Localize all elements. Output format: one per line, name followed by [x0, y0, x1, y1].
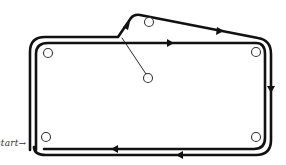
track-diagram [0, 0, 286, 165]
peg-top-left [44, 49, 53, 58]
arrow-bottom-inner-icon [111, 145, 118, 153]
start-label: start→ [0, 138, 26, 148]
peg-center [144, 74, 153, 83]
arrow-right-side-icon [267, 86, 275, 93]
outer-track [30, 15, 271, 155]
peg-top-right [252, 48, 261, 57]
inner-track [36, 43, 265, 150]
peg-bottom-left [42, 133, 51, 142]
arrow-top-inner-icon [167, 39, 174, 47]
peg-bottom-right [252, 133, 261, 142]
arrow-branch-top-icon [216, 27, 224, 35]
arrow-bottom-outer-icon [176, 151, 183, 159]
peg-branch-top [145, 18, 154, 27]
